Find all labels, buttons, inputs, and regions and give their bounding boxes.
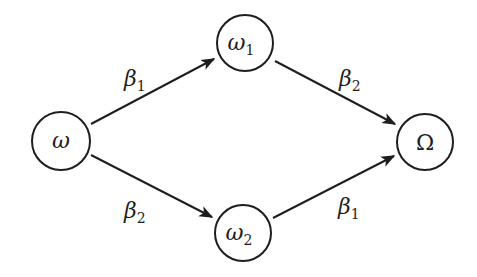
edge-label-beta2-top: β2 — [338, 66, 361, 94]
edge-omega-to-omega2 — [91, 155, 212, 217]
edge-omega-to-omega1 — [91, 59, 214, 124]
edge-label-beta1-bottom: β1 — [337, 194, 360, 222]
diagram-canvas: β1 β2 β2 β1 ω ω1 ω2 Ω — [0, 0, 477, 277]
edge-label-beta2-bottom: β2 — [123, 198, 146, 226]
node-label-Omega: Ω — [416, 130, 434, 155]
edge-omega1-to-Omega — [275, 61, 395, 124]
edge-label-beta1-top: β1 — [123, 66, 146, 94]
node-omega: ω — [32, 112, 90, 170]
edge-omega2-to-Omega — [273, 156, 394, 218]
node-label-omega: ω — [52, 128, 70, 153]
node-omega1: ω1 — [217, 15, 273, 71]
node-omega2: ω2 — [215, 205, 271, 261]
node-Omega: Ω — [397, 114, 453, 170]
